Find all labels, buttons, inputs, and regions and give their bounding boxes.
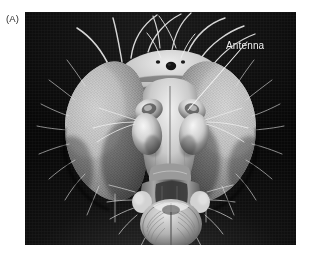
figure-panel-a: (A) (0, 0, 309, 257)
panel-label: (A) (6, 13, 19, 24)
annotation-label-antenna: Antenna (226, 40, 264, 52)
micrograph-image: Antenna (25, 12, 296, 245)
